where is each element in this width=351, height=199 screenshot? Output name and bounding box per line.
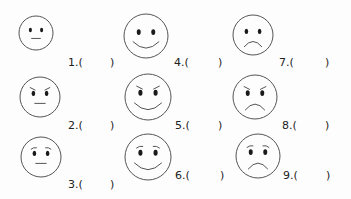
eye [137,29,141,35]
eyebrow [30,87,36,90]
eyebrow [45,148,51,150]
answer-label-5: 5.( [175,120,190,132]
face-outline [20,77,60,117]
face-worried-neutral-icon [21,137,61,177]
eye [151,29,155,35]
answer-blank-close-5: ) [218,120,222,132]
eye [246,90,250,96]
mouth-smile [134,163,162,170]
eyebrow [153,86,159,89]
emotion-faces-worksheet: 1.()2.()3.()4.()5.()6.()7.()8.()9.() [0,0,351,199]
answer-blank-close-8: ) [325,120,329,132]
answer-label-3: 3.( [68,179,83,191]
eye [45,91,49,96]
answer-blank-close-6: ) [220,170,224,182]
eyebrow [45,87,51,90]
eyebrow [244,86,250,89]
answer-label-7: 7.( [279,57,294,69]
eyebrow [31,148,37,150]
eye [260,90,264,96]
face-angry-sad-icon [233,75,277,119]
face-outline [125,134,171,180]
face-neutral-icon [19,16,53,50]
answer-label-2: 2.( [68,120,83,132]
eyebrow [153,146,160,148]
face-worried-smile-icon [125,134,171,180]
answer-blank-close-1: ) [110,57,114,69]
mouth-frown [244,42,262,48]
answer-blank-close-7: ) [325,57,329,69]
answer-label-4: 4.( [174,57,189,69]
eyebrow [260,86,266,89]
face-outline [236,134,280,178]
face-worried-sad-icon [236,134,280,178]
face-outline [125,74,171,120]
answer-blank-close-3: ) [110,179,114,191]
eye [32,91,36,96]
eye [40,28,43,32]
mouth-frown [245,104,265,110]
eye [245,29,249,34]
eye [154,90,158,96]
eye [263,149,267,155]
eye [258,29,262,34]
answer-blank-close-9: ) [326,170,330,182]
eyebrow [136,146,143,148]
mouth-smile [133,42,159,49]
answer-label-8: 8.( [282,120,297,132]
answer-blank-close-4: ) [218,57,222,69]
answer-label-6: 6.( [175,170,190,182]
eye [138,90,142,96]
face-outline [233,15,273,55]
mouth-frown [248,163,268,169]
face-outline [124,14,168,58]
answer-label-1: 1.( [68,57,83,69]
eye [29,28,32,32]
eye [154,150,158,156]
eyebrow [136,86,142,89]
answer-label-9: 9.( [283,170,298,182]
eye [249,149,253,155]
face-angry-smile-icon [125,74,171,120]
face-sad-icon [233,15,273,55]
face-outline [21,137,61,177]
face-happy-icon [124,14,168,58]
face-angry-neutral-icon [20,77,60,117]
face-outline [19,16,53,50]
face-outline [233,75,277,119]
eye [33,151,37,156]
eye [138,150,142,156]
answer-blank-close-2: ) [110,120,114,132]
mouth-smile [134,103,162,110]
eyebrow [247,146,254,148]
eyebrow [263,146,270,148]
eye [46,151,50,156]
